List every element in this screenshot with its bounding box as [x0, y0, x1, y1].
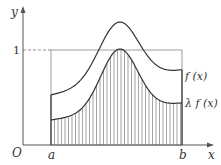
unit-box	[51, 50, 182, 145]
curve-lambda-f	[51, 49, 182, 120]
x-axis-arrow-icon	[207, 143, 214, 148]
shaded-region	[55, 49, 181, 145]
f-curve-label: f (x)	[184, 70, 207, 83]
diagram: y 1 O a b x f (x) λ f (x)	[0, 0, 221, 165]
x-axis-label: x	[208, 148, 215, 162]
y-axis-label: y	[10, 5, 18, 19]
y-tick-1-label: 1	[13, 44, 20, 57]
point-a-label: a	[48, 148, 55, 162]
point-b-label: b	[179, 148, 187, 162]
y-axis-arrow-icon	[21, 6, 26, 13]
origin-label: O	[12, 146, 22, 160]
lambda-f-curve-label: λ f (x)	[184, 97, 218, 110]
curve-f	[51, 22, 182, 95]
